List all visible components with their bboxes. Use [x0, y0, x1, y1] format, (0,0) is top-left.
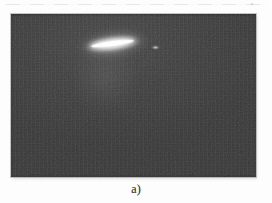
scan-artifact-speck — [249, 2, 255, 6]
subfigure-label: a) — [0, 182, 272, 196]
secondary-light-spot — [151, 45, 160, 50]
scan-artifact-line — [6, 4, 266, 5]
figure-page: a) — [0, 0, 272, 203]
dark-photo — [11, 14, 256, 177]
